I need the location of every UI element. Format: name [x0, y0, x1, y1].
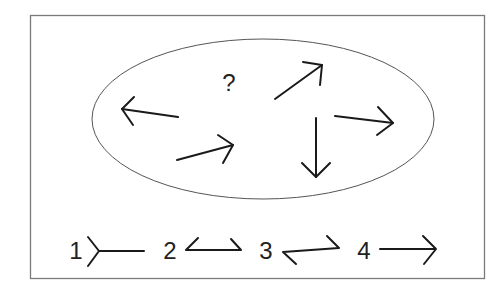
arrow-down-icon [302, 118, 330, 177]
arrow-left-icon [122, 97, 178, 125]
option-2-arrow-icon [186, 238, 241, 250]
ellipse [92, 39, 434, 199]
arrow-right-icon [335, 107, 393, 135]
option-2-label: 2 [163, 237, 176, 264]
option-1-label: 1 [69, 237, 82, 264]
options-row: 1 2 3 4 [69, 236, 436, 266]
option-4-label: 4 [357, 237, 370, 264]
option-2[interactable]: 2 [163, 237, 241, 264]
arrow-upper-right-icon [275, 62, 322, 99]
arrow-lower-right-icon [177, 135, 233, 163]
option-3-arrow-icon [283, 236, 339, 264]
option-3[interactable]: 3 [259, 236, 339, 264]
frame [31, 16, 485, 279]
option-1[interactable]: 1 [69, 237, 144, 266]
question-mark: ? [222, 69, 235, 96]
option-1-arrow-icon [88, 237, 144, 266]
option-4-arrow-icon [380, 236, 436, 264]
puzzle-figure: ? 1 [0, 0, 504, 289]
option-3-label: 3 [259, 237, 272, 264]
option-4[interactable]: 4 [357, 236, 436, 264]
